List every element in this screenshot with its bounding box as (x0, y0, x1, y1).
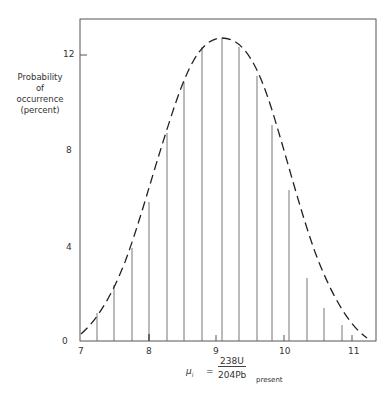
x-label-mu: μi (186, 366, 193, 378)
plot-frame (80, 19, 376, 341)
x-label-denominator: 204Pb (218, 370, 246, 380)
y-tick-label-0: 0 (62, 336, 68, 346)
x-tick-label-8: 8 (146, 346, 152, 356)
y-tick-label-8: 8 (66, 145, 72, 155)
distribution-curve (81, 38, 367, 338)
y-axis-label: Probability of occurrence (percent) (12, 72, 68, 116)
x-tick-label-11: 11 (348, 346, 359, 356)
y-label-line: Probability (12, 72, 68, 83)
x-label-present: present (256, 376, 283, 384)
y-label-line: occurrence (12, 94, 68, 105)
sampling-lines (97, 38, 342, 341)
x-tick-label-10: 10 (279, 346, 290, 356)
x-label-numerator: 238U (218, 356, 246, 367)
x-tick-label-9: 9 (213, 346, 219, 356)
chart-canvas (0, 0, 390, 397)
y-label-line: of (12, 83, 68, 94)
x-tick-label-7: 7 (78, 346, 84, 356)
y-tick-label-4: 4 (66, 242, 72, 252)
y-label-line: (percent) (12, 105, 68, 116)
y-tick-label-12: 12 (63, 49, 74, 59)
x-label-eq: = (206, 366, 214, 376)
